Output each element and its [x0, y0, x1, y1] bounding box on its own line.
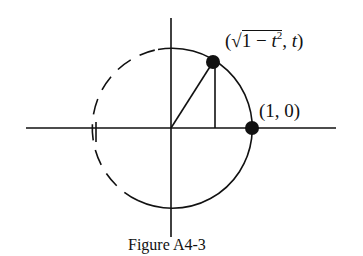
separator: , [282, 30, 292, 51]
radicand-one: 1 [242, 30, 252, 51]
radicand: 1 − t2 [242, 30, 283, 50]
diagram-canvas [0, 0, 363, 256]
dashed-arc [92, 50, 158, 201]
right-point-dot [245, 121, 259, 135]
minus-sign: − [251, 30, 271, 51]
upper-point-label: (√1 − t2, t) [225, 30, 303, 52]
radical-sign: √ [231, 30, 241, 51]
figure-caption: Figure A4-3 [128, 236, 206, 254]
unit-circle-figure: (√1 − t2, t) (1, 0) Figure A4-3 [0, 0, 363, 256]
upper-point-dot [206, 55, 220, 69]
right-point-label: (1, 0) [259, 100, 300, 122]
paren-close: ) [297, 30, 303, 51]
radius-line [171, 62, 213, 128]
